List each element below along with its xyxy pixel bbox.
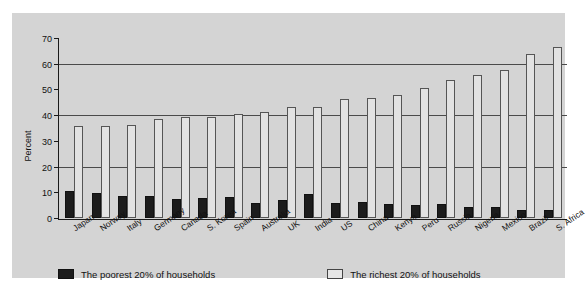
- bar-group: [88, 39, 115, 218]
- legend-label-richest: The richest 20% of households: [350, 269, 480, 280]
- bar-group: [114, 39, 141, 218]
- bar-group: [141, 39, 168, 218]
- bar-group: [220, 39, 247, 218]
- y-axis-tick: [54, 89, 59, 90]
- bar-richest: [181, 117, 190, 218]
- y-axis-tick: [54, 192, 59, 193]
- legend-label-poorest: The poorest 20% of households: [81, 269, 215, 280]
- bar-poorest: [92, 193, 101, 218]
- y-axis-tick-label: 30: [42, 137, 52, 147]
- bar-groups: [60, 39, 567, 218]
- bar-group: [167, 39, 194, 218]
- y-axis-tick-label: 60: [42, 60, 52, 70]
- bar-richest: [526, 54, 535, 218]
- y-axis-tick-label: 10: [42, 188, 52, 198]
- x-axis-label: UK: [286, 218, 301, 233]
- x-axis-labels: JapanNorwayItalyGermanyCanadaS. KoreaSpa…: [58, 222, 567, 264]
- bar-group: [61, 39, 88, 218]
- legend-swatch-richest-icon: [327, 269, 343, 279]
- bar-poorest: [437, 204, 446, 218]
- bar-group: [486, 39, 513, 218]
- bar-richest: [340, 99, 349, 218]
- y-axis-tick: [54, 38, 59, 39]
- bar-group: [539, 39, 566, 218]
- bar-richest: [74, 126, 83, 218]
- bar-group: [460, 39, 487, 218]
- legend-swatch-poorest-icon: [58, 269, 74, 279]
- bar-group: [327, 39, 354, 218]
- chart-legend: The poorest 20% of households The riches…: [58, 265, 558, 283]
- bar-group: [513, 39, 540, 218]
- bar-group: [247, 39, 274, 218]
- legend-item-richest: The richest 20% of households: [327, 269, 480, 280]
- chart-panel: Percent 010203040506070 JapanNorwayItaly…: [12, 13, 565, 278]
- bar-richest: [393, 95, 402, 218]
- bar-richest: [313, 107, 322, 218]
- plot-area: 010203040506070: [58, 39, 567, 220]
- bar-group: [194, 39, 221, 218]
- bar-group: [353, 39, 380, 218]
- legend-item-poorest: The poorest 20% of households: [58, 269, 215, 280]
- y-axis-title: Percent: [23, 130, 33, 161]
- bar-group: [407, 39, 434, 218]
- bar-group: [300, 39, 327, 218]
- bar-richest: [420, 88, 429, 218]
- y-axis-tick: [54, 115, 59, 116]
- bar-group: [433, 39, 460, 218]
- bar-poorest: [304, 194, 313, 218]
- y-axis-tick: [54, 218, 59, 219]
- bar-richest: [101, 126, 110, 218]
- y-axis-tick: [54, 64, 59, 65]
- y-axis-tick-label: 0: [47, 214, 52, 224]
- bar-poorest: [145, 196, 154, 218]
- bar-poorest: [65, 191, 74, 218]
- y-axis-tick-label: 50: [42, 85, 52, 95]
- y-axis-tick-label: 40: [42, 111, 52, 121]
- y-axis-tick-label: 20: [42, 163, 52, 173]
- bar-richest: [260, 112, 269, 218]
- plot-frame: 010203040506070: [58, 39, 567, 220]
- bar-richest: [446, 80, 455, 218]
- bar-richest: [553, 47, 562, 218]
- bar-richest: [154, 119, 163, 218]
- bar-richest: [207, 117, 216, 218]
- bar-richest: [234, 114, 243, 218]
- bar-richest: [367, 98, 376, 218]
- bar-richest: [127, 125, 136, 218]
- bar-poorest: [358, 202, 367, 218]
- y-axis-tick: [54, 167, 59, 168]
- y-axis-tick-label: 70: [42, 34, 52, 44]
- bar-poorest: [331, 203, 340, 218]
- x-axis-label: US: [339, 218, 354, 233]
- bar-richest: [500, 70, 509, 218]
- y-axis-tick: [54, 141, 59, 142]
- bar-richest: [473, 75, 482, 218]
- bar-group: [380, 39, 407, 218]
- bar-group: [274, 39, 301, 218]
- bar-richest: [287, 107, 296, 218]
